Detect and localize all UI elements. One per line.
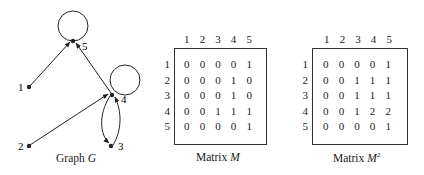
col-header: 1 [179,33,195,45]
cell: 1 [226,88,242,104]
cell: 1 [380,88,396,104]
cell: 0 [210,73,226,89]
cell: 2 [365,104,381,120]
graph-caption-var: G [88,152,96,164]
col-header: 5 [381,33,397,45]
row-header: 4 [298,104,308,120]
node-1 [27,85,31,89]
cell: 1 [226,104,242,120]
cell: 0 [226,119,242,135]
row-header: 1 [298,57,308,73]
node-label-4: 4 [121,93,127,105]
cell: 1 [365,88,381,104]
graph-caption: Graph G [56,152,96,164]
cell: 0 [365,57,381,73]
matrix-m2-cells: 00001 00111 00111 00122 00001 [318,57,396,135]
col-header: 3 [210,33,226,45]
cell: 0 [210,119,226,135]
cell: 0 [334,88,350,104]
cell: 1 [210,104,226,120]
cell: 1 [365,73,381,89]
cell: 1 [226,73,242,89]
cell: 0 [210,88,226,104]
row-header: 4 [160,104,170,120]
cell: 0 [195,57,211,73]
node-2 [27,144,31,148]
col-header: 1 [319,33,335,45]
matrix-m-cells: 00001 00010 00010 00111 00001 [179,57,257,135]
cell: 0 [365,119,381,135]
cell: 0 [195,88,211,104]
cell: 1 [241,57,257,73]
col-header: 2 [195,33,211,45]
cell: 1 [349,88,365,104]
row-header: 5 [160,119,170,135]
matrix-m2-row-headers: 1 2 3 4 5 [298,57,308,135]
edge-1-5 [30,42,70,86]
cell: 0 [318,119,334,135]
cell: 0 [195,104,211,120]
cell: 1 [380,57,396,73]
cell: 0 [210,57,226,73]
node-label-1: 1 [18,81,24,93]
cell: 0 [334,119,350,135]
graph-g: 1 2 3 4 5 [0,0,150,175]
cell: 0 [241,88,257,104]
row-header: 3 [160,88,170,104]
node-label-2: 2 [18,140,24,152]
col-header: 4 [226,33,242,45]
cell: 0 [179,57,195,73]
caption-var: M [230,151,240,163]
edge-3-4 [113,97,120,145]
cell: 1 [349,104,365,120]
col-header: 2 [335,33,351,45]
cell: 0 [226,57,242,73]
matrix-m-row-headers: 1 2 3 4 5 [160,57,170,135]
edge-4-3 [102,96,110,143]
row-header: 5 [298,119,308,135]
cell: 0 [179,104,195,120]
row-header: 1 [160,57,170,73]
cell: 0 [241,73,257,89]
cell: 0 [318,88,334,104]
cell: 0 [318,104,334,120]
cell: 0 [349,119,365,135]
cell: 0 [179,88,195,104]
cell: 0 [318,57,334,73]
cell: 0 [334,73,350,89]
cell: 0 [349,57,365,73]
col-header: 5 [241,33,257,45]
node-5 [71,39,75,43]
cell: 1 [380,73,396,89]
caption-prefix: Matrix [333,152,367,164]
graph-caption-prefix: Graph [56,152,88,164]
matrix-m2-caption: Matrix M2 [333,151,380,164]
col-header: 3 [350,33,366,45]
col-header: 4 [366,33,382,45]
caption-prefix: Matrix [196,151,230,163]
row-header: 2 [160,73,170,89]
row-header: 3 [298,88,308,104]
matrix-m-caption: Matrix M [196,151,240,163]
cell: 1 [241,104,257,120]
edge-4-4 [110,65,140,95]
node-4 [110,93,114,97]
row-header: 2 [298,73,308,89]
node-label-3: 3 [118,140,124,152]
cell: 2 [380,104,396,120]
matrix-m2-col-headers: 1 2 3 4 5 [319,33,397,45]
cell: 0 [195,73,211,89]
cell: 0 [334,104,350,120]
node-3 [109,144,113,148]
cell: 0 [334,57,350,73]
matrix-m-col-headers: 1 2 3 4 5 [179,33,257,45]
node-label-5: 5 [82,40,88,52]
caption-superscript: 2 [377,151,381,159]
cell: 0 [318,73,334,89]
cell: 1 [241,119,257,135]
cell: 1 [380,119,396,135]
cell: 0 [195,119,211,135]
cell: 0 [179,119,195,135]
caption-var: M [367,152,377,164]
edge-2-4 [30,94,108,145]
